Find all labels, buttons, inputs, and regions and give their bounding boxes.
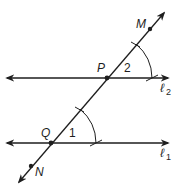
label-angle-2: 2 [124,61,131,75]
point-q [49,141,54,146]
label-l1: ℓ 1 [160,146,171,162]
svg-text:ℓ: ℓ [160,81,165,95]
svg-text:ℓ: ℓ [160,146,165,160]
label-p: P [97,61,105,75]
label-n: N [35,165,44,179]
label-l2: ℓ 2 [160,81,171,97]
point-n [29,164,33,168]
label-m: M [136,17,146,31]
label-q: Q [41,126,50,140]
point-m [148,27,152,31]
point-p [105,76,110,81]
transversal-line [19,13,164,182]
svg-text:1: 1 [166,152,171,162]
svg-text:2: 2 [166,87,171,97]
angle-2-arc [131,42,158,81]
geometry-diagram: M P Q N 2 1 ℓ 2 ℓ 1 [0,0,182,188]
label-angle-1: 1 [69,126,76,140]
